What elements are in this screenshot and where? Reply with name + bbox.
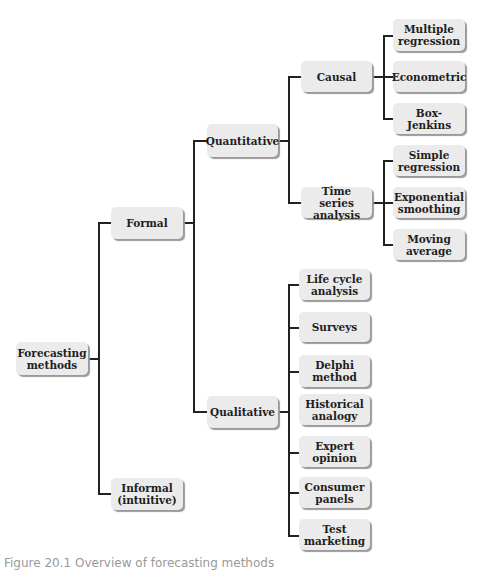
- node-box-jenkins: Box-Jenkins: [393, 103, 465, 134]
- node-qualitative: Qualitative: [207, 396, 278, 428]
- node-test-marketing: Test marketing: [299, 519, 370, 550]
- node-expert-opinion: Expert opinion: [299, 436, 370, 467]
- node-informal: Informal (intuitive): [111, 478, 183, 510]
- connector: [288, 202, 301, 204]
- figure-caption: Figure 20.1 Overview of forecasting meth…: [4, 556, 274, 570]
- node-delphi-method: Delphi method: [299, 355, 370, 387]
- connector: [383, 202, 393, 204]
- node-simple-regression: Simple regression: [393, 145, 465, 176]
- node-life-cycle-analysis: Life cycle analysis: [299, 269, 370, 300]
- node-econometric: Econometric: [393, 61, 465, 92]
- connector: [98, 222, 111, 224]
- connector: [383, 244, 393, 246]
- node-time-series-analysis: Time series analysis: [301, 187, 372, 218]
- node-multiple-regression: Multiple regression: [393, 19, 465, 51]
- node-forecasting-methods: Forecasting methods: [16, 342, 88, 375]
- connector: [98, 222, 100, 494]
- connector: [288, 535, 299, 537]
- connector: [383, 35, 393, 37]
- node-exponential-smoothing: Exponential smoothing: [393, 187, 465, 218]
- connector: [383, 118, 393, 120]
- connector: [98, 493, 111, 495]
- connector: [193, 411, 207, 413]
- connector: [288, 284, 299, 286]
- connector: [193, 140, 195, 412]
- node-consumer-panels: Consumer panels: [299, 477, 370, 508]
- node-moving-average: Moving average: [393, 229, 465, 260]
- node-surveys: Surveys: [299, 312, 370, 342]
- connector: [288, 492, 299, 494]
- connector: [288, 76, 290, 202]
- node-causal: Causal: [301, 61, 372, 92]
- connector: [288, 284, 290, 536]
- connector: [288, 371, 299, 373]
- node-historical-analogy: Historical analogy: [299, 394, 370, 425]
- connector: [288, 76, 301, 78]
- node-formal: Formal: [111, 207, 183, 239]
- connector: [288, 452, 299, 454]
- connector: [383, 160, 393, 162]
- connector: [288, 327, 299, 329]
- node-quantitative: Quantitative: [207, 124, 278, 157]
